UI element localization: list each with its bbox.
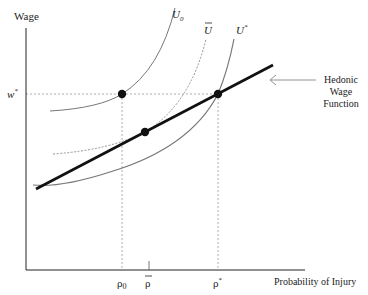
ustar-curve xyxy=(33,39,234,185)
hedonic-wage-line xyxy=(36,65,273,189)
axes xyxy=(26,28,305,270)
y-axis-label: Wage xyxy=(14,10,39,22)
point-ubar xyxy=(141,128,149,136)
w-star-label: w* xyxy=(7,87,18,100)
point-u0-w-star xyxy=(118,90,126,98)
ubar-label: U xyxy=(204,24,213,36)
u0-label: U0 xyxy=(172,8,184,23)
ubar-curve xyxy=(53,39,206,154)
arrow-icon xyxy=(270,75,316,85)
guide-lines xyxy=(26,94,218,270)
point-equilibrium xyxy=(214,90,222,98)
hedonic-annotation: Hedonic Wage Function xyxy=(323,74,359,109)
rho-star-label: ρ* xyxy=(213,276,223,289)
hedonic-wage-diagram: Wage Probability of Injury w* ρ0 ρ ρ* U0… xyxy=(0,0,368,295)
ustar-label: U* xyxy=(236,23,248,36)
svg-text:Hedonic: Hedonic xyxy=(324,74,358,85)
x-axis-label: Probability of Injury xyxy=(274,276,356,287)
svg-text:Wage: Wage xyxy=(330,86,353,97)
rho0-label: ρ0 xyxy=(117,277,127,291)
u0-curve xyxy=(50,8,175,111)
rho-bar-label: ρ xyxy=(145,277,151,289)
svg-text:Function: Function xyxy=(323,98,359,109)
